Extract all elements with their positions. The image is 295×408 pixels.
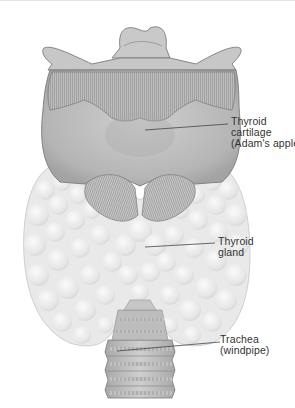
- label-line: (Adam's apple): [231, 138, 295, 149]
- label-line: (windpipe): [220, 345, 269, 356]
- label-line: gland: [218, 247, 254, 258]
- label-trachea: Trachea (windpipe): [220, 334, 269, 356]
- label-thyroid-gland: Thyroid gland: [218, 236, 254, 258]
- label-thyroid-cartilage: Thyroid cartilage (Adam's apple): [231, 116, 295, 149]
